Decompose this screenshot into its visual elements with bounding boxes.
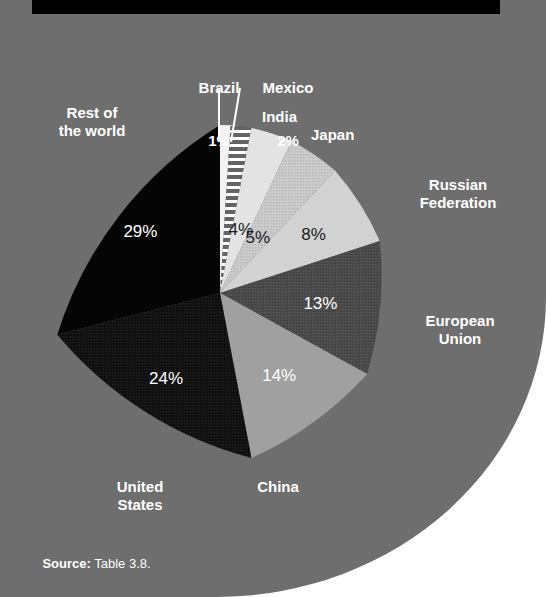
slice-value-japan: 5% [246,228,271,247]
slice-value-rest-of-the-world: 29% [123,222,157,241]
source-text: Table 3.8. [91,556,151,571]
slice-value-russian-federation: 8% [301,225,326,244]
source-note: Source: Table 3.8. [28,541,151,586]
figure-root: Carbon dioxide emissions in 1995 [0,0,546,597]
slice-value-china: 14% [262,366,296,385]
callout-mexico-label: Mexico [238,79,338,97]
label-china: China [228,478,328,496]
label-rest-of-the-world: Rest of the world [24,104,160,139]
source-prefix: Source: [42,556,90,571]
label-european-union: European Union [390,312,530,347]
slice-value-european-union: 13% [303,294,337,313]
label-japan: Japan [311,126,354,144]
label-india: India [262,108,297,126]
label-united-states: United States [80,478,200,513]
label-russian-federation: Russian Federation [386,176,530,211]
slice-value-united-states: 24% [149,369,183,388]
